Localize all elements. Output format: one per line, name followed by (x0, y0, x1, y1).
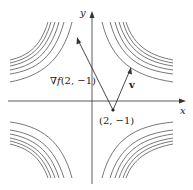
level-curves-top-right (102, 22, 173, 82)
gradient-arrowhead-icon (77, 37, 82, 45)
nabla-symbol: ∇ (50, 75, 57, 86)
gradient-label: ∇f(2, −1) (50, 75, 96, 86)
point-label: (2, −1) (99, 115, 134, 126)
level-curves-bottom-left (10, 122, 72, 178)
x-axis (8, 99, 186, 104)
level-curves-diagram: y x (2, −1) ∇f(2, −1) v (0, 0, 193, 190)
x-axis-label: x (180, 105, 186, 116)
y-axis-arrow-icon (90, 11, 95, 18)
y-axis-label: y (79, 7, 86, 18)
gradient-args: (2, −1) (61, 75, 96, 86)
v-label: v (128, 79, 136, 90)
point-marker (111, 108, 114, 111)
y-axis (90, 11, 95, 184)
level-curves-top-left (10, 22, 72, 82)
level-curves-bottom-right (102, 122, 173, 178)
gradient-vector (77, 37, 114, 110)
x-axis-arrow-icon (179, 99, 186, 104)
